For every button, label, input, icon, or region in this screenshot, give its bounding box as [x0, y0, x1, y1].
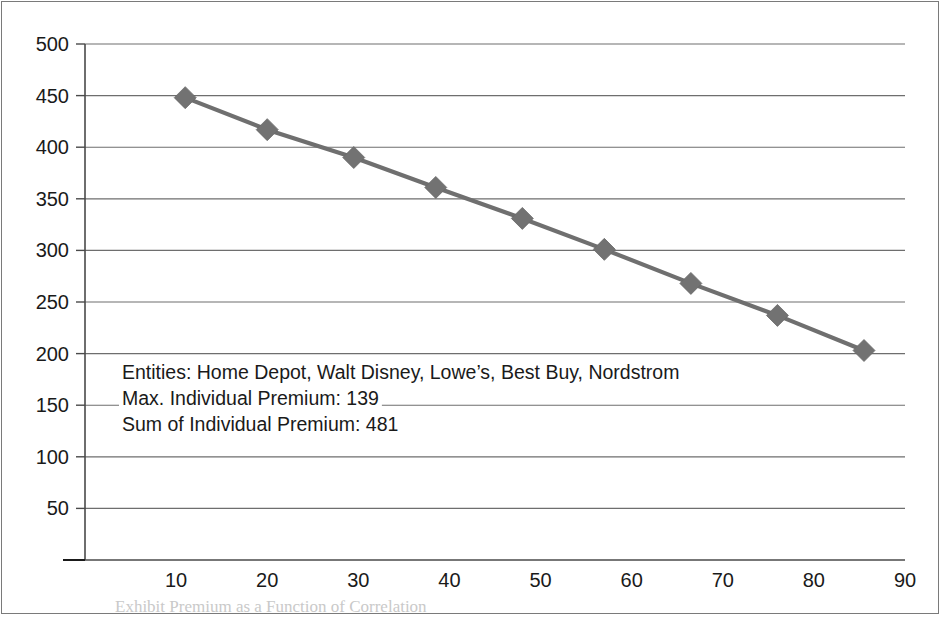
- data-point-marker: [593, 238, 615, 260]
- x-axis-tick-label: 60: [621, 569, 643, 591]
- data-point-marker: [511, 207, 533, 229]
- y-axis-tick-label: 200: [36, 343, 69, 365]
- line-chart: 50100150200250300350400450500 1020304050…: [0, 0, 942, 617]
- data-point-marker: [174, 87, 196, 109]
- x-axis-tick-label: 20: [256, 569, 278, 591]
- y-axis-tick-label: 450: [36, 85, 69, 107]
- x-axis-tick-label: 40: [438, 569, 460, 591]
- data-point-marker: [766, 304, 788, 326]
- x-axis-tick-labels: 102030405060708090: [165, 569, 916, 591]
- annotation-block: Entities: Home Depot, Walt Disney, Lowe’…: [119, 359, 682, 437]
- y-axis-tick-label: 250: [36, 291, 69, 313]
- data-point-marker: [425, 176, 447, 198]
- data-point-marker: [853, 340, 875, 362]
- y-axis-tick-labels: 50100150200250300350400450500: [36, 33, 69, 519]
- x-axis-tick-label: 30: [347, 569, 369, 591]
- x-axis-tick-label: 10: [165, 569, 187, 591]
- y-axis-tick-label: 150: [36, 394, 69, 416]
- gridlines: [85, 44, 905, 508]
- y-axis-tick-label: 100: [36, 446, 69, 468]
- x-axis-tick-label: 80: [803, 569, 825, 591]
- chart-page: 50100150200250300350400450500 1020304050…: [0, 0, 942, 617]
- x-axis-tick-label: 90: [894, 569, 916, 591]
- y-axis-tick-label: 350: [36, 188, 69, 210]
- figure-caption: Exhibit Premium as a Function of Correla…: [115, 597, 427, 616]
- annotation-line: Sum of Individual Premium: 481: [122, 413, 398, 435]
- chart-canvas: 50100150200250300350400450500 1020304050…: [0, 0, 942, 617]
- data-point-markers: [174, 87, 875, 362]
- y-axis-tick-label: 500: [36, 33, 69, 55]
- x-axis-tick-label: 50: [529, 569, 551, 591]
- annotation-line: Max. Individual Premium: 139: [122, 387, 379, 409]
- x-axis-tick-label: 70: [712, 569, 734, 591]
- y-axis-tick-label: 300: [36, 239, 69, 261]
- data-point-marker: [343, 147, 365, 169]
- annotation-line: Entities: Home Depot, Walt Disney, Lowe’…: [122, 361, 679, 383]
- y-axis-tick-label: 400: [36, 136, 69, 158]
- data-point-marker: [680, 272, 702, 294]
- data-point-marker: [256, 119, 278, 141]
- y-axis-tick-label: 50: [47, 497, 69, 519]
